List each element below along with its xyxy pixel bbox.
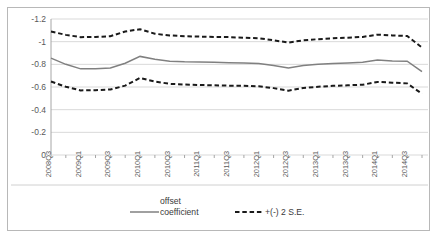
chart-plot-area: -1.2-1-0.8-0.6-0.4-0.202008Q32009Q12009Q… bbox=[8, 8, 431, 232]
x-axis-tick-label: 2010Q3 bbox=[163, 151, 172, 177]
y-axis-tick-label: -0.8 bbox=[31, 59, 46, 69]
y-axis-tick-label: -0.2 bbox=[31, 127, 46, 137]
x-axis-tick-label: 2009Q1 bbox=[74, 151, 83, 177]
y-axis-tick-label: -1.2 bbox=[31, 14, 46, 24]
y-axis-tick-label: -0.4 bbox=[31, 105, 46, 115]
y-axis-tick-label: -0.6 bbox=[31, 82, 46, 92]
x-axis-tick-label: 2014Q1 bbox=[370, 151, 379, 177]
x-axis-tick-label: 2012Q3 bbox=[281, 151, 290, 177]
x-axis-tick-label: 2014Q3 bbox=[400, 151, 409, 177]
series-line-standard-error bbox=[51, 78, 422, 94]
series-line-standard-error bbox=[51, 29, 422, 47]
x-axis-tick-label: 2012Q1 bbox=[252, 151, 261, 177]
x-axis-tick-label: 2010Q1 bbox=[133, 151, 142, 177]
x-axis-tick-label: 2011Q3 bbox=[222, 151, 231, 177]
x-axis-tick-label: 2013Q3 bbox=[341, 151, 350, 177]
x-axis-tick-label: 2009Q3 bbox=[103, 151, 112, 177]
x-axis-tick-label: 2013Q1 bbox=[311, 151, 320, 177]
chart-frame: -1.2-1-0.8-0.6-0.4-0.202008Q32009Q12009Q… bbox=[7, 7, 430, 231]
x-axis-tick-label: 2008Q3 bbox=[44, 151, 53, 177]
legend-label-coefficient-line1: offset bbox=[160, 196, 181, 206]
line-chart: -1.2-1-0.8-0.6-0.4-0.202008Q32009Q12009Q… bbox=[8, 8, 431, 232]
y-axis-tick-label: -1 bbox=[38, 37, 46, 47]
legend-label-coefficient-line2: coefficient bbox=[160, 207, 199, 217]
legend-label-standard-error: +(-) 2 S.E. bbox=[265, 207, 304, 217]
x-axis-tick-label: 2011Q1 bbox=[192, 151, 201, 177]
